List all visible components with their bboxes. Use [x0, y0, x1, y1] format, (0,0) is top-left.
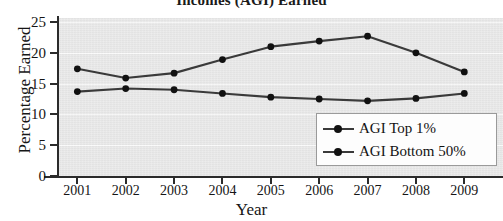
data-point: [461, 90, 468, 97]
data-point: [413, 95, 420, 102]
data-point: [122, 75, 129, 82]
data-point: [364, 97, 371, 104]
data-point: [74, 65, 81, 72]
data-point: [316, 38, 323, 45]
data-point: [171, 86, 178, 93]
legend-marker-icon: [323, 145, 354, 159]
series-1: [74, 33, 468, 82]
data-point: [267, 94, 274, 101]
legend: AGI Top 1%AGI Bottom 50%: [316, 113, 497, 166]
data-point: [219, 56, 226, 63]
data-point: [171, 70, 178, 77]
chart-canvas: Incomes (AGI) Earned Percentage Earned 0…: [0, 0, 503, 221]
series-layer: [0, 0, 503, 221]
legend-label: AGI Bottom 50%: [359, 144, 466, 159]
series-line: [77, 36, 464, 78]
data-point: [364, 33, 371, 40]
legend-marker-icon: [323, 122, 354, 136]
legend-label: AGI Top 1%: [359, 121, 436, 136]
data-point: [219, 90, 226, 97]
data-point: [122, 85, 129, 92]
data-point: [316, 96, 323, 103]
data-point: [74, 88, 81, 95]
legend-item: AGI Bottom 50%: [323, 140, 490, 163]
series-2: [74, 85, 468, 104]
data-point: [267, 43, 274, 50]
x-axis-title: Year: [0, 200, 503, 220]
data-point: [461, 69, 468, 76]
data-point: [413, 49, 420, 56]
legend-item: AGI Top 1%: [323, 117, 490, 140]
